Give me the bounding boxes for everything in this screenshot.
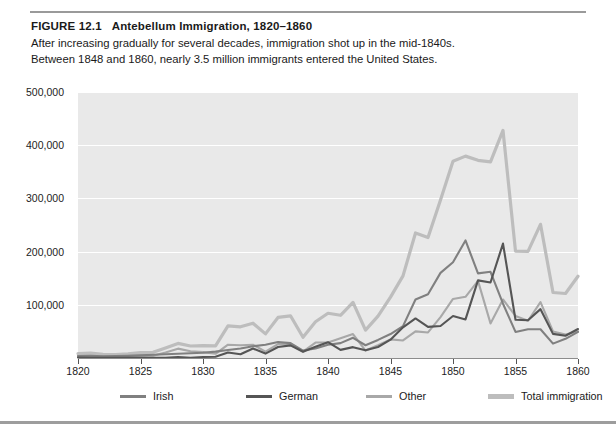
- legend-swatch-icon: [488, 394, 514, 399]
- x-tick-1825: [141, 359, 142, 364]
- figure-container: FIGURE 12.1Antebellum Immigration, 1820–…: [0, 0, 616, 429]
- y-tick-label-500000: 500,000: [26, 87, 64, 97]
- y-tick-label-400000: 400,000: [26, 140, 64, 150]
- x-tick-label-1845: 1845: [371, 366, 411, 377]
- legend-swatch-icon: [366, 395, 392, 398]
- legend-label: Total immigration: [521, 390, 603, 402]
- x-tick-1850: [453, 359, 454, 364]
- x-tick-1820: [78, 359, 79, 364]
- legend-swatch-icon: [120, 395, 146, 398]
- y-tick-label-100000: 100,000: [26, 300, 64, 310]
- x-tick-label-1840: 1840: [308, 366, 348, 377]
- y-tick-label-200000: 200,000: [26, 247, 64, 257]
- x-tick-1835: [266, 359, 267, 364]
- x-tick-1845: [391, 359, 392, 364]
- x-tick-label-1830: 1830: [183, 366, 223, 377]
- x-tick-1830: [203, 359, 204, 364]
- legend-swatch-icon: [246, 395, 272, 398]
- x-tick-label-1825: 1825: [121, 366, 161, 377]
- legend-label: German: [279, 390, 318, 402]
- legend-label: Other: [399, 390, 426, 402]
- legend-item-other[interactable]: Other: [366, 390, 426, 402]
- series-lines: [78, 92, 578, 358]
- x-tick-label-1835: 1835: [246, 366, 286, 377]
- x-tick-label-1820: 1820: [58, 366, 98, 377]
- chart: 100,000200,000300,000400,000500,000 1820…: [0, 0, 616, 429]
- legend-label: Irish: [153, 390, 173, 402]
- chart-legend: IrishGermanOtherTotal immigration: [78, 388, 578, 410]
- y-axis-labels: 100,000200,000300,000400,000500,000: [0, 92, 72, 358]
- plot-area: [78, 92, 578, 358]
- x-tick-label-1860: 1860: [558, 366, 598, 377]
- legend-item-german[interactable]: German: [246, 390, 318, 402]
- x-tick-1840: [328, 359, 329, 364]
- series-line-total-immigration: [78, 130, 578, 354]
- x-tick-1860: [578, 359, 579, 364]
- series-line-irish: [78, 240, 578, 356]
- legend-item-total-immigration[interactable]: Total immigration: [488, 390, 603, 402]
- legend-item-irish[interactable]: Irish: [120, 390, 173, 402]
- x-tick-label-1850: 1850: [433, 366, 473, 377]
- figure-bottom-rule: [0, 421, 616, 424]
- y-tick-label-300000: 300,000: [26, 193, 64, 203]
- x-tick-1855: [516, 359, 517, 364]
- x-tick-label-1855: 1855: [496, 366, 536, 377]
